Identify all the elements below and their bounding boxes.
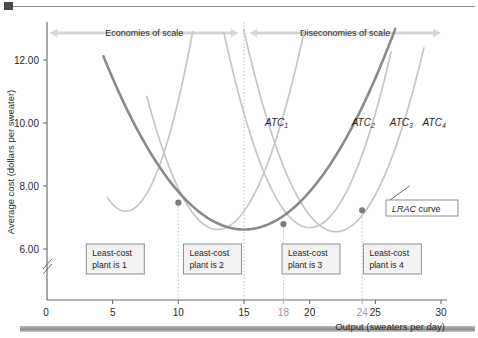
plant-boxes-group: Least-costplant is 1Least-costplant is 2…: [86, 244, 421, 274]
y-tick-label: 12.00: [14, 55, 39, 66]
x-tick-label: 24: [357, 307, 369, 318]
curve-label-atc-3: ATC3: [389, 117, 413, 129]
x-axis-title: Output (sweaters per day): [335, 321, 445, 332]
curve-atc-1: [107, 32, 192, 211]
x-tick-label: 25: [370, 307, 382, 318]
lrac-callout-group: LRAC curve: [386, 186, 458, 216]
curve-label-atc-4: ATC4: [422, 117, 446, 129]
figure-container: Economies of scaleDiseconomies of scale …: [0, 0, 478, 338]
intersection-point-marker: [175, 200, 181, 206]
y-tick-label: 6.00: [20, 244, 40, 255]
x-tick-label: 20: [304, 307, 316, 318]
curve-label-atc-1: ATC1: [264, 117, 288, 129]
least-cost-plant-label: Least-costplant is 4: [369, 248, 409, 270]
cost-curves-chart: Economies of scaleDiseconomies of scale …: [0, 0, 478, 338]
least-cost-plant-label: Least-costplant is 1: [92, 248, 132, 270]
intersection-point-marker: [280, 221, 286, 227]
least-cost-plant-label: Least-costplant is 3: [288, 248, 328, 270]
x-tick-label-origin: 0: [43, 307, 49, 318]
band-label: Diseconomies of scale: [300, 28, 390, 38]
curve-atc-3: [224, 33, 391, 228]
x-tick-label: 18: [278, 307, 290, 318]
x-tick-label: 15: [238, 307, 250, 318]
y-axis-title: Average cost (dollars per sweater): [5, 90, 16, 235]
curve-label-atc-2: ATC2: [351, 117, 375, 129]
x-tick-label: 10: [173, 307, 185, 318]
callout-leader-line: [390, 186, 409, 200]
y-tick-label: 10.00: [14, 118, 39, 129]
least-cost-plant-label: Least-costplant is 2: [189, 248, 229, 270]
x-tick-label: 30: [435, 307, 447, 318]
y-tick-label: 8.00: [20, 181, 40, 192]
curves-group: [103, 29, 423, 232]
lrac-callout-label: LRAC curve: [392, 204, 441, 214]
tick-labels-group: 6.008.0010.0012.000510151820242530: [14, 55, 447, 319]
x-tick-label: 5: [110, 307, 116, 318]
band-label: Economies of scale: [105, 28, 183, 38]
intersection-point-marker: [359, 207, 365, 213]
curve-labels-group: ATC1ATC2ATC3ATC4: [264, 117, 446, 129]
